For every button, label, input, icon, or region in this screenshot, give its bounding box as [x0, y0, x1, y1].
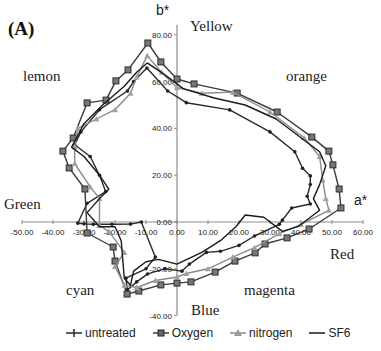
plus-marker — [205, 251, 209, 255]
cielab-chart: -50.00-40.00-30.00-20.00-10.000.0010.002… — [0, 0, 381, 351]
plus-marker — [140, 220, 144, 224]
plus-marker — [237, 244, 241, 248]
plus-marker — [305, 194, 309, 198]
y-tick-label: 80.00 — [152, 31, 173, 40]
plus-marker — [188, 262, 192, 266]
series-line — [72, 63, 326, 285]
square-marker — [336, 186, 342, 192]
legend-label: untreated — [85, 326, 136, 340]
square-marker — [60, 148, 66, 154]
square-marker — [284, 235, 290, 241]
plus-marker — [88, 155, 92, 159]
plus-marker — [309, 183, 313, 187]
plus-marker — [268, 130, 272, 134]
plus-marker — [166, 89, 170, 93]
square-marker — [188, 279, 194, 285]
square-marker — [212, 269, 218, 275]
y-tick-label: 40.00 — [152, 124, 173, 133]
plus-marker — [92, 223, 96, 227]
plus-marker — [145, 66, 149, 70]
legend: untreated Oxygen nitrogen SF6 — [65, 326, 350, 340]
plus-marker — [293, 150, 297, 154]
legend-item-nitrogen: nitrogen — [229, 326, 292, 340]
legend-label: Oxygen — [172, 326, 213, 340]
square-marker — [84, 100, 90, 106]
plus-marker — [278, 223, 282, 227]
legend-label: nitrogen — [249, 326, 292, 340]
plus-marker — [154, 255, 158, 259]
legend-item-untreated: untreated — [65, 326, 136, 340]
square-marker — [145, 40, 151, 46]
y-axis-name: b* — [156, 2, 169, 18]
square-marker — [309, 134, 315, 140]
x-tick-label: 10.00 — [198, 228, 219, 237]
square-marker-icon — [152, 328, 170, 338]
plus-marker — [253, 234, 257, 238]
square-marker — [158, 282, 164, 288]
square-marker — [113, 78, 119, 84]
square-marker — [124, 291, 130, 297]
x-tick-label: -40.00 — [42, 228, 65, 237]
color-label-cyan: cyan — [66, 282, 94, 299]
square-marker — [274, 109, 280, 115]
square-marker — [306, 226, 312, 232]
y-tick-label: 0.00 — [156, 218, 172, 227]
color-label-green: Green — [4, 196, 41, 213]
triangle-marker — [323, 196, 329, 202]
plus-marker — [146, 272, 150, 276]
y-tick-label: -40.00 — [149, 312, 172, 321]
x-tick-label: 50.00 — [322, 228, 343, 237]
color-label-yellow: Yellow — [190, 18, 233, 35]
x-tick-label: 0.00 — [169, 228, 185, 237]
triangle-marker — [326, 207, 332, 213]
square-marker — [66, 165, 72, 171]
x-tick-label: 60.00 — [353, 228, 374, 237]
square-marker — [338, 205, 344, 211]
plot-area: -50.00-40.00-30.00-20.00-10.000.0010.002… — [0, 0, 381, 351]
series-nitrogen — [72, 53, 332, 290]
square-marker — [84, 230, 90, 236]
square-marker — [174, 76, 180, 82]
square-marker — [82, 186, 88, 192]
plus-marker — [144, 267, 148, 271]
line-marker-icon — [308, 328, 326, 338]
triangle-marker — [72, 161, 78, 167]
square-marker — [174, 280, 180, 286]
triangle-marker-icon — [229, 328, 247, 338]
color-label-orange: orange — [286, 68, 327, 85]
plus-marker-icon — [65, 328, 83, 338]
square-marker — [110, 244, 116, 250]
plus-marker — [290, 206, 294, 210]
square-marker — [191, 81, 197, 87]
x-tick-label: -50.00 — [11, 228, 34, 237]
triangle-marker — [252, 245, 258, 251]
plus-marker — [110, 223, 114, 227]
plus-marker — [135, 280, 139, 284]
color-label-magenta: magenta — [244, 282, 295, 299]
plus-marker — [163, 267, 167, 271]
square-marker — [252, 250, 258, 256]
plus-marker — [129, 222, 133, 226]
plus-marker — [126, 89, 130, 93]
x-axis-name: a* — [354, 192, 367, 208]
triangle-marker — [144, 53, 150, 59]
color-label-lemon: lemon — [23, 68, 61, 85]
plus-marker — [82, 222, 86, 226]
plus-marker — [185, 101, 189, 105]
plus-marker — [309, 202, 313, 206]
plus-marker — [301, 166, 305, 170]
panel-label: (A) — [8, 18, 34, 40]
legend-label: SF6 — [328, 326, 350, 340]
series-sf6 — [72, 63, 326, 285]
plus-marker — [281, 218, 285, 222]
plus-marker — [180, 269, 184, 273]
square-marker — [326, 148, 332, 154]
square-marker — [125, 67, 131, 73]
plus-marker — [76, 221, 80, 225]
square-marker — [330, 162, 336, 168]
plus-marker — [228, 108, 232, 112]
color-label-blue: Blue — [191, 302, 219, 319]
color-label-red: Red — [330, 246, 354, 263]
plus-marker — [219, 249, 223, 253]
y-tick-label: 20.00 — [152, 171, 173, 180]
